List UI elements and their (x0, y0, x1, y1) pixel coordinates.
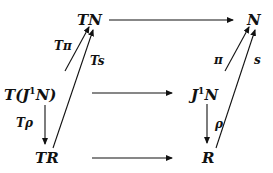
label-t-pi: Tπ (54, 40, 72, 52)
commutative-diagram: TN N T(J1N) J1N TR R Tπ Ts Tρ π s ρ (0, 0, 273, 173)
node-r-text: R (202, 149, 214, 167)
node-r: R (202, 151, 214, 166)
label-t-rho: Tρ (16, 117, 33, 129)
node-tj1n-prefix: T(J (4, 86, 29, 104)
node-tj1n: T(J1N) (4, 87, 56, 103)
node-tn: TN (77, 13, 102, 28)
label-pi: π (214, 54, 223, 66)
node-j1n-suffix: N (204, 86, 218, 104)
node-tj1n-suffix: N) (36, 86, 57, 104)
node-n: N (247, 13, 261, 28)
arrow-pi (225, 27, 249, 71)
node-tr: TR (35, 151, 59, 166)
node-tr-text: TR (35, 149, 59, 167)
node-tn-text: TN (77, 11, 102, 29)
label-s: s (254, 54, 261, 66)
node-j1n: J1N (191, 87, 218, 103)
label-t-s: Ts (90, 55, 105, 67)
label-rho: ρ (215, 118, 223, 130)
node-n-text: N (247, 11, 261, 29)
